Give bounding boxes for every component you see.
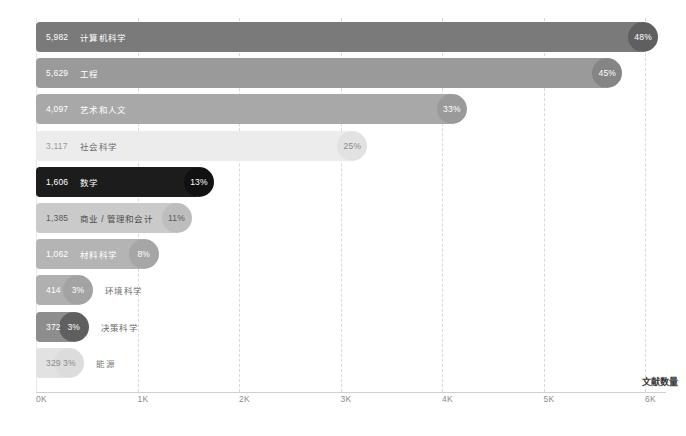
bar-value-label: 414	[46, 275, 61, 305]
x-tick-3K: 3K	[341, 394, 352, 404]
bar-value-label: 329	[46, 348, 61, 378]
bar-row[interactable]: 3%372决策科学	[36, 312, 645, 342]
bar-value-label: 4,097	[46, 94, 68, 124]
bar-end-cap: 8%	[129, 239, 159, 269]
bar-value-label: 3,117	[46, 131, 68, 161]
bar-percent-label: 11%	[168, 213, 185, 223]
bar-row[interactable]: 25%3,117社会科学	[36, 131, 645, 161]
bar-percent-label: 48%	[634, 32, 652, 42]
bar-end-cap: 45%	[592, 58, 622, 88]
plot-area: 48%5,982计算机科学45%5,629工程33%4,097艺术和人文25%3…	[36, 18, 645, 392]
bar-category-label: 数学	[80, 167, 99, 197]
bar-percent-label: 13%	[190, 177, 208, 187]
bar-end-cap: 3%	[59, 312, 89, 342]
bar[interactable]	[36, 58, 607, 88]
bar-category-label: 能源	[96, 348, 115, 378]
bar[interactable]	[36, 22, 643, 52]
bar-value-label: 1,385	[46, 203, 68, 233]
bar-percent-label: 3%	[72, 285, 85, 295]
bar-row[interactable]: 13%1,606数学	[36, 167, 645, 197]
bar-value-label: 372	[46, 312, 61, 342]
bar-value-label: 1,062	[46, 239, 68, 269]
bar-percent-label: 3%	[67, 322, 80, 332]
bar-row[interactable]: 45%5,629工程	[36, 58, 645, 88]
bar-category-label: 工程	[80, 58, 99, 88]
bar-end-cap: 33%	[437, 94, 467, 124]
bar-end-cap: 48%	[628, 22, 658, 52]
bar-row[interactable]: 48%5,982计算机科学	[36, 22, 645, 52]
x-tick-6K: 6K	[645, 394, 656, 404]
bar-row[interactable]: 8%1,062材料科学	[36, 239, 645, 269]
x-tick-5K: 5K	[544, 394, 555, 404]
x-axis-title: 文献数量	[642, 375, 678, 388]
bar-value-label: 5,982	[46, 22, 68, 52]
x-axis-line	[36, 392, 666, 393]
bar-percent-label: 3%	[63, 358, 76, 368]
bar-value-label: 5,629	[46, 58, 68, 88]
bar-end-cap: 25%	[337, 131, 367, 161]
bar-category-label: 社会科学	[80, 131, 117, 161]
bar-category-label: 环境科学	[105, 275, 142, 305]
chart-canvas: 48%5,982计算机科学45%5,629工程33%4,097艺术和人文25%3…	[0, 0, 686, 436]
x-tick-2K: 2K	[239, 394, 250, 404]
bar-category-label: 艺术和人文	[80, 94, 127, 124]
bar-row[interactable]: 3%329能源	[36, 348, 645, 378]
bar-value-label: 1,606	[46, 167, 68, 197]
bar-end-cap: 13%	[184, 167, 214, 197]
bar-percent-label: 45%	[599, 68, 617, 78]
bar-percent-label: 33%	[443, 104, 461, 114]
bar-category-label: 材料科学	[80, 239, 117, 269]
bar-category-label: 决策科学	[101, 312, 138, 342]
bar-row[interactable]: 11%1,385商业 / 管理和会计	[36, 203, 645, 233]
bar-row[interactable]: 3%414环境科学	[36, 275, 645, 305]
gridline-6K	[645, 18, 646, 392]
x-tick-4K: 4K	[442, 394, 453, 404]
bar-end-cap: 3%	[63, 275, 93, 305]
x-tick-1K: 1K	[138, 394, 149, 404]
bar-percent-label: 8%	[137, 249, 150, 259]
bar-category-label: 商业 / 管理和会计	[80, 203, 153, 233]
bar-end-cap: 11%	[162, 203, 192, 233]
bar-percent-label: 25%	[344, 141, 362, 151]
x-tick-0K: 0K	[36, 394, 47, 404]
bar-row[interactable]: 33%4,097艺术和人文	[36, 94, 645, 124]
bar-category-label: 计算机科学	[80, 22, 127, 52]
